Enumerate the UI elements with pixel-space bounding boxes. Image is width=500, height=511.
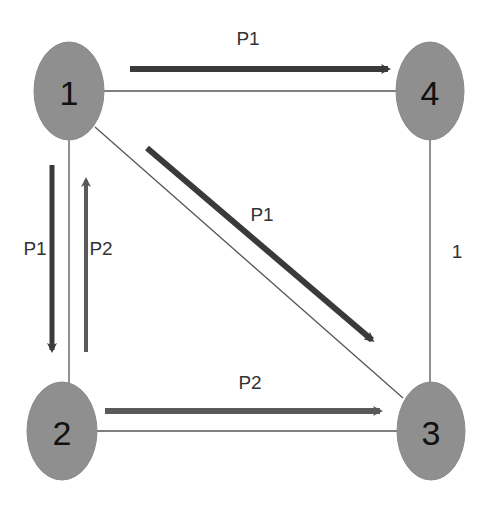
network-flow-diagram: 1 4 2 3 P1 P1 P1 P2 P2 1 xyxy=(0,0,500,511)
node-3: 3 xyxy=(397,382,465,480)
flow-label-p1-top: P1 xyxy=(236,28,259,49)
flow-label-p1-diagonal: P1 xyxy=(250,204,273,225)
node-2-label: 2 xyxy=(53,414,72,452)
node-3-label: 3 xyxy=(422,414,441,452)
node-4: 4 xyxy=(396,42,464,140)
node-4-label: 4 xyxy=(421,74,440,112)
edge-label-4-3: 1 xyxy=(452,241,463,262)
node-2: 2 xyxy=(27,382,97,480)
flow-label-p2-bottom: P2 xyxy=(238,372,261,393)
node-1-label: 1 xyxy=(60,74,79,112)
flow-label-p1-left: P1 xyxy=(23,238,46,259)
flow-label-p2-left: P2 xyxy=(89,238,112,259)
node-1: 1 xyxy=(34,42,104,140)
flow-arrow-p1-1-to-3 xyxy=(147,148,372,340)
edge-1-3 xyxy=(95,127,403,398)
